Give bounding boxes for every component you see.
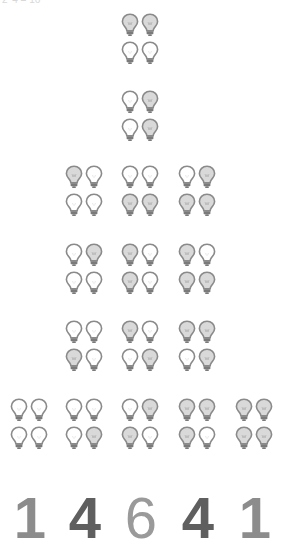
- lightbulb-off-icon: [121, 165, 139, 189]
- lightbulb-on-icon: [178, 320, 196, 344]
- count-3-lit: 4: [178, 486, 218, 550]
- lightbulb-off-icon: [65, 426, 83, 450]
- lightbulb-on-icon: [178, 193, 196, 217]
- bulb-group-3-lit-1: [178, 165, 218, 217]
- lightbulb-on-icon: [141, 193, 159, 217]
- bulb-group-1-lit-4: [65, 398, 105, 450]
- bulb-group-4-lit-1: [235, 398, 275, 450]
- lightbulb-on-icon: [121, 426, 139, 450]
- lightbulb-off-icon: [198, 243, 216, 267]
- lightbulb-on-icon: [178, 271, 196, 295]
- lightbulb-on-icon: [141, 348, 159, 372]
- lightbulb-off-icon: [198, 426, 216, 450]
- lightbulb-on-icon: [121, 13, 139, 37]
- bulb-group-3-lit-2: [178, 243, 218, 295]
- lightbulb-off-icon: [65, 243, 83, 267]
- lightbulb-on-icon: [235, 426, 253, 450]
- lightbulb-off-icon: [65, 271, 83, 295]
- lightbulb-off-icon: [121, 348, 139, 372]
- bulb-group-2-lit-1: [121, 13, 161, 65]
- lightbulb-on-icon: [121, 320, 139, 344]
- top-caption: 2^4 = 16: [2, 0, 40, 5]
- lightbulb-off-icon: [121, 90, 139, 114]
- lightbulb-on-icon: [85, 426, 103, 450]
- lightbulb-on-icon: [121, 271, 139, 295]
- lightbulb-off-icon: [85, 165, 103, 189]
- lightbulb-on-icon: [235, 398, 253, 422]
- lightbulb-on-icon: [198, 320, 216, 344]
- lightbulb-on-icon: [65, 348, 83, 372]
- lightbulb-off-icon: [10, 398, 28, 422]
- lightbulb-off-icon: [141, 271, 159, 295]
- lightbulb-off-icon: [178, 165, 196, 189]
- lightbulb-on-icon: [178, 398, 196, 422]
- bulb-group-3-lit-3: [178, 320, 218, 372]
- lightbulb-off-icon: [141, 41, 159, 65]
- lightbulb-on-icon: [141, 13, 159, 37]
- lightbulb-off-icon: [30, 426, 48, 450]
- bulb-group-3-lit-4: [178, 398, 218, 450]
- bulb-group-2-lit-3: [121, 165, 161, 217]
- bulb-group-2-lit-6: [121, 398, 161, 450]
- lightbulb-off-icon: [85, 271, 103, 295]
- lightbulb-on-icon: [121, 243, 139, 267]
- lightbulb-on-icon: [198, 348, 216, 372]
- lightbulb-on-icon: [141, 90, 159, 114]
- lightbulb-on-icon: [198, 193, 216, 217]
- bulb-group-1-lit-1: [65, 165, 105, 217]
- lightbulb-off-icon: [85, 320, 103, 344]
- lightbulb-off-icon: [65, 320, 83, 344]
- lightbulb-on-icon: [198, 165, 216, 189]
- bulb-group-2-lit-4: [121, 243, 161, 295]
- count-2-lit: 6: [121, 486, 161, 550]
- lightbulb-off-icon: [141, 243, 159, 267]
- lightbulb-off-icon: [30, 398, 48, 422]
- bulb-group-1-lit-3: [65, 320, 105, 372]
- lightbulb-on-icon: [178, 426, 196, 450]
- lightbulb-off-icon: [85, 398, 103, 422]
- lightbulb-on-icon: [255, 398, 273, 422]
- bulb-group-2-lit-5: [121, 320, 161, 372]
- lightbulb-off-icon: [121, 118, 139, 142]
- count-1-lit: 4: [65, 486, 105, 550]
- lightbulb-on-icon: [198, 398, 216, 422]
- lightbulb-on-icon: [255, 426, 273, 450]
- lightbulb-off-icon: [121, 398, 139, 422]
- lightbulb-off-icon: [10, 426, 28, 450]
- lightbulb-on-icon: [141, 118, 159, 142]
- lightbulb-on-icon: [141, 398, 159, 422]
- lightbulb-off-icon: [141, 320, 159, 344]
- lightbulb-off-icon: [178, 348, 196, 372]
- lightbulb-off-icon: [121, 41, 139, 65]
- lightbulb-on-icon: [85, 243, 103, 267]
- count-4-lit: 1: [235, 486, 275, 550]
- bulb-group-0-lit-1: [10, 398, 50, 450]
- bulb-group-2-lit-2: [121, 90, 161, 142]
- lightbulb-on-icon: [121, 193, 139, 217]
- lightbulb-on-icon: [65, 165, 83, 189]
- lightbulb-off-icon: [85, 348, 103, 372]
- lightbulb-off-icon: [85, 193, 103, 217]
- lightbulb-off-icon: [65, 398, 83, 422]
- count-0-lit: 1: [10, 486, 50, 550]
- bulb-group-1-lit-2: [65, 243, 105, 295]
- lightbulb-off-icon: [141, 426, 159, 450]
- lightbulb-off-icon: [141, 165, 159, 189]
- lightbulb-on-icon: [178, 243, 196, 267]
- lightbulb-on-icon: [198, 271, 216, 295]
- lightbulb-off-icon: [65, 193, 83, 217]
